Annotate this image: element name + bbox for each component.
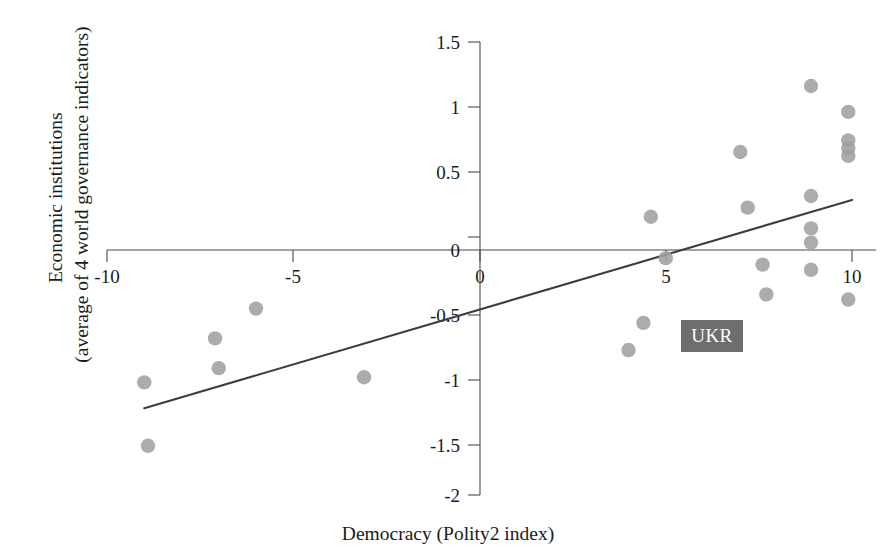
y-axis-title-line2: (average of 4 world governance indicator…	[69, 33, 95, 363]
y-tick-label: -2	[444, 485, 460, 506]
scatter-point	[804, 221, 818, 235]
ukr-annotation-label: UKR	[681, 320, 743, 352]
x-tick-label: -5	[285, 266, 301, 287]
scatter-point	[755, 257, 769, 271]
y-tick-label: -1	[444, 370, 460, 391]
scatter-point	[733, 145, 747, 159]
y-tick-label: 1	[451, 97, 461, 118]
scatter-point	[804, 235, 818, 249]
scatter-point	[141, 439, 155, 453]
scatter-point	[137, 375, 151, 389]
data-points	[137, 79, 855, 453]
x-tick-label: 0	[475, 266, 485, 287]
scatter-point	[249, 301, 263, 315]
x-tick-label: 5	[661, 266, 671, 287]
x-tick-labels: -10 -5 0 5 10	[94, 266, 861, 287]
scatter-point	[636, 316, 650, 330]
scatter-point	[841, 105, 855, 119]
scatter-point	[759, 287, 773, 301]
scatter-point	[804, 189, 818, 203]
scatter-point	[621, 343, 635, 357]
scatter-point	[659, 251, 673, 265]
scatter-point	[212, 361, 226, 375]
y-tick-label: -1.5	[430, 435, 460, 456]
scatter-point	[208, 331, 222, 345]
y-tick-label: 0.5	[436, 162, 460, 183]
scatter-point	[804, 263, 818, 277]
x-tick-label: -10	[94, 266, 119, 287]
scatter-point	[841, 292, 855, 306]
scatter-point	[357, 370, 371, 384]
x-axis-title: Democracy (Polity2 index)	[0, 523, 896, 545]
y-tick-labels: 1.5 1 0.5 0 -0.5 -1 -1.5 -2	[430, 32, 460, 506]
y-axis-title-line1: Economic institutions	[43, 33, 69, 363]
y-tick-label: 0	[451, 240, 461, 261]
scatter-point	[841, 149, 855, 163]
scatter-point	[741, 200, 755, 214]
y-axis-title: Economic institutions (average of 4 worl…	[43, 33, 94, 363]
scatter-point	[804, 79, 818, 93]
plot-canvas: -10 -5 0 5 10 1.5 1 0.5 0 -0.5 -1 -1.5 -…	[0, 0, 896, 557]
y-tick-label: 1.5	[436, 32, 460, 53]
scatter-point	[644, 210, 658, 224]
scatter-plot-figure: -10 -5 0 5 10 1.5 1 0.5 0 -0.5 -1 -1.5 -…	[0, 0, 896, 557]
x-tick-label: 10	[843, 266, 862, 287]
